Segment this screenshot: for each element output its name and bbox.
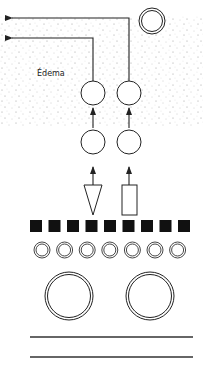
edema-region: [0, 16, 203, 126]
lower-cell-right-icon: [117, 130, 141, 154]
upper-cell-right-icon: [117, 81, 141, 105]
rectangle-icon: [122, 185, 137, 215]
large-double-circle-left-icon: [45, 272, 93, 320]
black-square-icon: [67, 220, 79, 232]
small-double-circle-icon: [170, 242, 186, 258]
black-square-icon: [178, 220, 190, 232]
lower-cell-left-icon: [81, 130, 105, 154]
black-square-icon: [104, 220, 116, 232]
black-square-icon: [141, 220, 153, 232]
edema-label: Édema: [37, 67, 65, 78]
small-double-circles-row: [34, 242, 186, 258]
black-squares-row: [30, 220, 190, 232]
small-double-circle-icon: [79, 242, 95, 258]
black-square-icon: [123, 220, 135, 232]
black-square-icon: [160, 220, 172, 232]
upper-cell-left-icon: [81, 81, 105, 105]
vessel-double-circle-icon: [139, 8, 165, 34]
large-double-circle-right-icon: [126, 272, 174, 320]
small-double-circle-icon: [57, 242, 73, 258]
triangle-icon: [84, 185, 102, 215]
black-square-icon: [30, 220, 42, 232]
small-double-circle-icon: [147, 242, 163, 258]
black-square-icon: [86, 220, 98, 232]
small-double-circle-icon: [124, 242, 140, 258]
small-double-circle-icon: [34, 242, 50, 258]
black-square-icon: [49, 220, 61, 232]
small-double-circle-icon: [102, 242, 118, 258]
edema-diagram: Édema: [0, 0, 203, 373]
